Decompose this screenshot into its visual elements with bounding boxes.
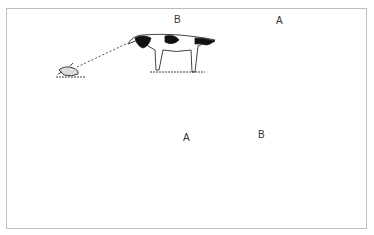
bottom-dog-b-label: B [258, 130, 265, 140]
sight-line [77, 43, 128, 67]
illustration [0, 0, 374, 235]
dog-b-top [128, 34, 215, 72]
top-dog-a-label: A [276, 16, 283, 26]
top-dog-b-label: B [174, 15, 181, 25]
bottom-dog-a-label: A [183, 133, 190, 143]
